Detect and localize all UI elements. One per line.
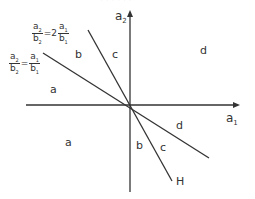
- region-c-upper: c: [112, 49, 118, 60]
- region-d-lower: d: [176, 120, 183, 131]
- y-axis-arrow-icon: [127, 10, 133, 17]
- region-c-lower: c: [160, 142, 166, 153]
- region-d-upper: d: [200, 45, 207, 56]
- y-axis-label: a2: [115, 10, 127, 25]
- region-a-lower: a: [65, 137, 72, 148]
- region-b-lower: b: [136, 140, 143, 151]
- region-a-upper: a: [50, 84, 57, 95]
- x-axis-arrow-icon: [233, 102, 240, 108]
- line-h-label: H: [176, 176, 184, 187]
- x-axis-label: a1: [226, 112, 238, 127]
- region-b-upper: b: [75, 49, 82, 60]
- equation-equal-ratio: a2b2 = a1b1: [9, 52, 40, 75]
- equation-double-ratio: a2b2 =2 a1b1: [32, 22, 69, 45]
